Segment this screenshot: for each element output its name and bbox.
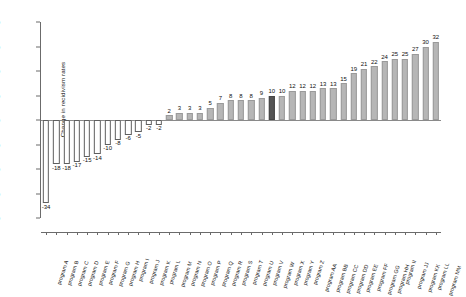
y-tick-mark [36, 218, 40, 219]
bar[interactable] [289, 91, 295, 120]
bar[interactable] [74, 120, 80, 162]
bar[interactable] [156, 120, 162, 125]
x-tick-mark [118, 232, 119, 235]
bar[interactable] [361, 69, 367, 120]
bar-slot[interactable]: 7 [215, 22, 225, 218]
bar-slot[interactable]: -18 [62, 22, 72, 218]
bar-value-label: -5 [136, 133, 141, 139]
bar[interactable] [392, 59, 398, 120]
bar[interactable] [197, 113, 203, 120]
bar-value-label: 3 [178, 105, 181, 111]
x-tick-mark [415, 232, 416, 235]
bar[interactable] [371, 66, 377, 120]
bar-slot[interactable]: 2 [164, 22, 174, 218]
bar-slot[interactable]: -6 [123, 22, 133, 218]
x-tick-mark [87, 232, 88, 235]
x-tick-mark [385, 232, 386, 235]
bar-slot[interactable]: 30 [420, 22, 430, 218]
bar[interactable] [402, 59, 408, 120]
bar-slot[interactable]: -2 [144, 22, 154, 218]
bar-value-label: -15 [83, 157, 92, 163]
bar[interactable] [279, 96, 285, 121]
x-tick-mark [292, 232, 293, 235]
bar[interactable] [412, 54, 418, 120]
bar-slot[interactable]: 8 [246, 22, 256, 218]
bar[interactable] [299, 91, 305, 120]
bar-slot[interactable]: 13 [318, 22, 328, 218]
x-tick-mark [405, 232, 406, 235]
bar-slot[interactable]: 8 [236, 22, 246, 218]
bar-slot[interactable]: 12 [287, 22, 297, 218]
bar[interactable] [125, 120, 131, 135]
bar[interactable] [228, 100, 234, 120]
bar[interactable] [166, 115, 172, 120]
y-tick-mark [36, 95, 40, 96]
bar-slot[interactable]: 3 [185, 22, 195, 218]
bar-slot[interactable]: -2 [154, 22, 164, 218]
bar[interactable] [248, 100, 254, 120]
bar[interactable] [176, 113, 182, 120]
bar-slot[interactable]: 12 [308, 22, 318, 218]
bar[interactable] [207, 108, 213, 120]
bar[interactable] [94, 120, 100, 154]
bar[interactable] [330, 88, 336, 120]
bar-slot[interactable]: 21 [359, 22, 369, 218]
bar-value-label: 13 [330, 81, 337, 87]
bar-slot[interactable]: 19 [349, 22, 359, 218]
bar[interactable] [146, 120, 152, 125]
bar[interactable] [238, 100, 244, 120]
bar-slot[interactable]: 5 [205, 22, 215, 218]
bar-slot[interactable]: 15 [338, 22, 348, 218]
bar-slot[interactable]: 3 [195, 22, 205, 218]
bar[interactable] [433, 42, 439, 120]
bar-slot[interactable]: 24 [379, 22, 389, 218]
bar[interactable] [381, 61, 387, 120]
bar-slot[interactable]: 32 [431, 22, 441, 218]
x-tick-label-text: program MM [447, 265, 462, 296]
bar-slot[interactable]: 3 [174, 22, 184, 218]
bar-slot[interactable]: -8 [113, 22, 123, 218]
x-tick-mark [77, 232, 78, 235]
bar[interactable] [320, 88, 326, 120]
bar-slot[interactable]: 25 [390, 22, 400, 218]
bar-value-label: 13 [320, 81, 327, 87]
bar-slot[interactable]: 25 [400, 22, 410, 218]
bar[interactable] [115, 120, 121, 140]
bar[interactable] [258, 98, 264, 120]
x-tick-mark [231, 232, 232, 235]
bar-slot[interactable]: 10 [277, 22, 287, 218]
bar[interactable] [187, 113, 193, 120]
bar[interactable] [422, 47, 428, 121]
bar[interactable] [217, 103, 223, 120]
bar-slot[interactable]: 8 [226, 22, 236, 218]
bar-slot[interactable]: -14 [92, 22, 102, 218]
bar-slot[interactable]: -10 [103, 22, 113, 218]
bar[interactable] [104, 120, 110, 145]
y-tick-mark [36, 193, 40, 194]
bar-slot[interactable]: -18 [51, 22, 61, 218]
bar-slot[interactable]: -34 [41, 22, 51, 218]
bar[interactable] [351, 73, 357, 120]
bar[interactable] [135, 120, 141, 132]
bar[interactable] [43, 120, 49, 203]
bar-slot[interactable]: 9 [256, 22, 266, 218]
x-tick-mark [344, 232, 345, 235]
bar-slot[interactable]: -17 [72, 22, 82, 218]
bar-value-label: 5 [209, 100, 212, 106]
bar[interactable] [84, 120, 90, 157]
x-tick-mark [436, 232, 437, 235]
bar[interactable] [269, 96, 275, 121]
bar-slot[interactable]: 10 [267, 22, 277, 218]
bar-slot[interactable]: 12 [297, 22, 307, 218]
bar-value-label: 25 [402, 51, 409, 57]
bar-slot[interactable]: 27 [410, 22, 420, 218]
bar-slot[interactable]: -5 [133, 22, 143, 218]
bar-slot[interactable]: 13 [328, 22, 338, 218]
bar-slot[interactable]: -15 [82, 22, 92, 218]
bar[interactable] [63, 120, 69, 164]
bar-slot[interactable]: 22 [369, 22, 379, 218]
bar[interactable] [310, 91, 316, 120]
bar[interactable] [340, 83, 346, 120]
bar[interactable] [53, 120, 59, 164]
